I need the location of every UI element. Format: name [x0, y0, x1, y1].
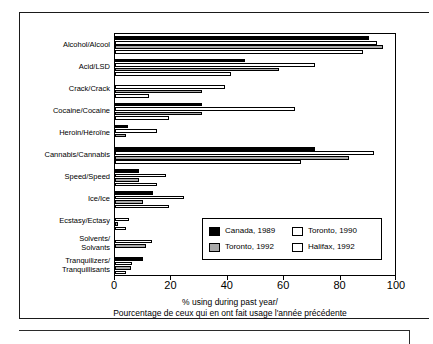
y-axis-label-3: Cocaine/Cocaine [0, 106, 110, 115]
bar-tor90 [115, 262, 132, 266]
bar-canada [115, 59, 245, 63]
legend-row: Toronto, 1992Halifax, 1992 [209, 239, 375, 255]
legend-swatch-tor92 [209, 243, 220, 252]
legend-label-tor92: Toronto, 1992 [225, 242, 274, 252]
legend-swatch-canada [209, 227, 220, 236]
bar-tor90 [115, 196, 184, 200]
y-axis-label-1: Acid/LSD [0, 62, 110, 71]
bar-tor90 [115, 41, 377, 45]
bar-tor92 [115, 222, 118, 226]
y-axis-label-10: Tranquilizers/ Tranquillisants [0, 256, 110, 274]
bar-group [115, 189, 395, 211]
bar-canada [115, 169, 139, 173]
bar-halifax [115, 205, 169, 209]
y-axis-label-7: Ice/Ice [0, 194, 110, 203]
bar-tor90 [115, 85, 225, 89]
legend-label-canada: Canada, 1989 [225, 226, 275, 236]
bar-halifax [115, 116, 169, 120]
x-tick-label-60: 60 [277, 279, 289, 292]
x-axis-tick-labels: 020406080100 [0, 279, 433, 293]
bar-tor92 [115, 68, 279, 72]
legend-swatch-halifax [292, 243, 303, 252]
y-axis-label-5: Cannabis/Cannabis [0, 150, 110, 159]
bar-tor90 [115, 151, 374, 155]
bar-tor92 [115, 266, 131, 270]
legend-item-tor90: Toronto, 1990 [292, 226, 375, 236]
bar-halifax [115, 227, 126, 231]
chart-legend: Canada, 1989Toronto, 1990Toronto, 1992Ha… [202, 218, 382, 260]
bar-tor90 [115, 107, 295, 111]
y-axis-label-8: Ecstasy/Ectasy [0, 216, 110, 225]
legend-row: Canada, 1989Toronto, 1990 [209, 223, 375, 239]
y-axis-label-9: Solvents/ Solvants [0, 234, 110, 252]
bar-halifax [115, 72, 231, 76]
bar-group [115, 167, 395, 189]
bar-canada [115, 103, 202, 107]
x-tick-label-20: 20 [164, 279, 176, 292]
legend-item-canada: Canada, 1989 [209, 226, 292, 236]
y-axis-category-labels: Alcohol/AlcoolAcid/LSDCrack/CrackCocaine… [0, 33, 110, 276]
x-tick-label-0: 0 [111, 279, 117, 292]
bar-tor92 [115, 134, 126, 138]
bar-group [115, 56, 395, 78]
y-axis-label-4: Heroin/Héroïne [0, 128, 110, 137]
bar-halifax [115, 271, 126, 275]
bar-group [115, 100, 395, 122]
frame-right-stub [409, 330, 410, 344]
legend-label-halifax: Halifax, 1992 [308, 242, 355, 252]
legend-label-tor90: Toronto, 1990 [308, 226, 357, 236]
bar-canada [115, 125, 128, 129]
bar-halifax [115, 183, 157, 187]
y-axis-label-0: Alcohol/Alcool [0, 40, 110, 49]
bar-canada [115, 257, 143, 261]
bar-tor92 [115, 156, 349, 160]
x-axis-title-line1: % using during past year/ [60, 297, 400, 308]
legend-swatch-tor90 [292, 227, 303, 236]
bar-halifax [115, 160, 301, 164]
legend-item-halifax: Halifax, 1992 [292, 242, 375, 252]
bar-tor92 [115, 112, 202, 116]
bar-tor90 [115, 63, 315, 67]
bar-group [115, 78, 395, 100]
bar-tor92 [115, 90, 202, 94]
bar-tor90 [115, 218, 129, 222]
bar-halifax [115, 94, 149, 98]
bar-tor90 [115, 129, 157, 133]
legend-item-tor92: Toronto, 1992 [209, 242, 292, 252]
bar-tor92 [115, 244, 146, 248]
chart-page: Alcohol/AlcoolAcid/LSDCrack/CrackCocaine… [0, 0, 433, 344]
y-axis-label-2: Crack/Crack [0, 84, 110, 93]
x-tick-label-40: 40 [221, 279, 233, 292]
bar-canada [115, 147, 315, 151]
x-tick-label-100: 100 [387, 279, 405, 292]
frame-bottom-rule [19, 330, 410, 331]
bar-group [115, 34, 395, 56]
bar-tor92 [115, 178, 139, 182]
bar-tor90 [115, 240, 152, 244]
bar-canada [115, 36, 369, 40]
bar-tor92 [115, 200, 143, 204]
x-axis-title: % using during past year/ Pourcentage de… [60, 297, 400, 319]
bar-canada [115, 191, 153, 195]
bar-group [115, 122, 395, 144]
bar-tor92 [115, 45, 383, 49]
x-tick-label-80: 80 [333, 279, 345, 292]
bar-tor90 [115, 174, 166, 178]
bar-halifax [115, 50, 363, 54]
x-axis-title-line2: Pourcentage de ceux qui en ont fait usag… [60, 308, 400, 319]
bar-group [115, 144, 395, 166]
y-axis-label-6: Speed/Speed [0, 172, 110, 181]
